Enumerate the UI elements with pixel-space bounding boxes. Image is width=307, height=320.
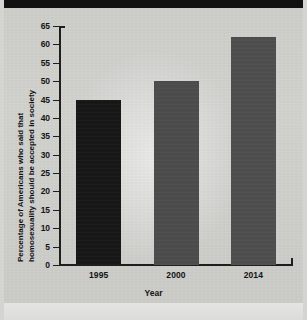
top-black-band <box>4 0 303 8</box>
y-tick-mark <box>53 210 59 211</box>
y-tick-label: 65 <box>6 22 50 31</box>
bar-texture <box>154 81 199 265</box>
y-tick-mark <box>53 44 59 45</box>
y-tick-mark <box>53 81 59 82</box>
bar-texture <box>231 37 276 265</box>
bar-2000[interactable] <box>154 81 199 265</box>
bar-1995[interactable] <box>76 100 121 265</box>
y-tick-mark <box>53 118 59 119</box>
y-tick-mark <box>53 173 59 174</box>
x-tick-label-1995: 1995 <box>69 270 129 280</box>
bottom-paper-strip <box>4 303 303 320</box>
y-tick-mark <box>53 247 59 248</box>
y-tick-mark <box>53 136 59 137</box>
y-tick-mark <box>53 228 59 229</box>
figure-page: 05101520253035404550556065 Percentage of… <box>0 0 307 320</box>
y-tick-mark <box>53 191 59 192</box>
y-tick-mark <box>53 155 59 156</box>
plot-area <box>60 26 292 265</box>
y-tick-label: 50 <box>6 77 50 86</box>
y-tick-mark <box>53 100 59 101</box>
y-tick-mark <box>53 26 59 27</box>
x-tick-label-2000: 2000 <box>146 270 206 280</box>
x-tick-label-2014: 2014 <box>223 270 283 280</box>
y-tick-label: 0 <box>6 261 50 270</box>
y-tick-mark <box>53 265 59 266</box>
x-axis-title: Year <box>0 288 307 298</box>
y-tick-label: 55 <box>6 59 50 68</box>
y-tick-mark <box>53 63 59 64</box>
y-tick-label: 60 <box>6 40 50 49</box>
y-axis-title-line1: Percentage of Americans who said that <box>16 113 27 262</box>
bar-texture <box>76 100 121 265</box>
bar-2014[interactable] <box>231 37 276 265</box>
y-axis-title-line2: homosexuality should be accepted in soci… <box>27 90 38 262</box>
